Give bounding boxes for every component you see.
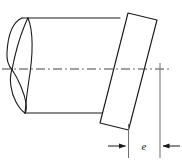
inclined-plate bbox=[100, 13, 157, 130]
technical-drawing-figure: e bbox=[0, 0, 182, 168]
cylinder-left-cap-upper-arc bbox=[7, 18, 22, 70]
cylinder-break-seam-curve bbox=[25, 18, 32, 113]
drawing-canvas: e bbox=[0, 0, 182, 168]
dimension-label-e: e bbox=[142, 140, 147, 152]
cylinder-body bbox=[7, 18, 120, 113]
inclined-plate-outline bbox=[100, 13, 157, 130]
cylinder-section-lens-upper bbox=[12, 18, 28, 70]
